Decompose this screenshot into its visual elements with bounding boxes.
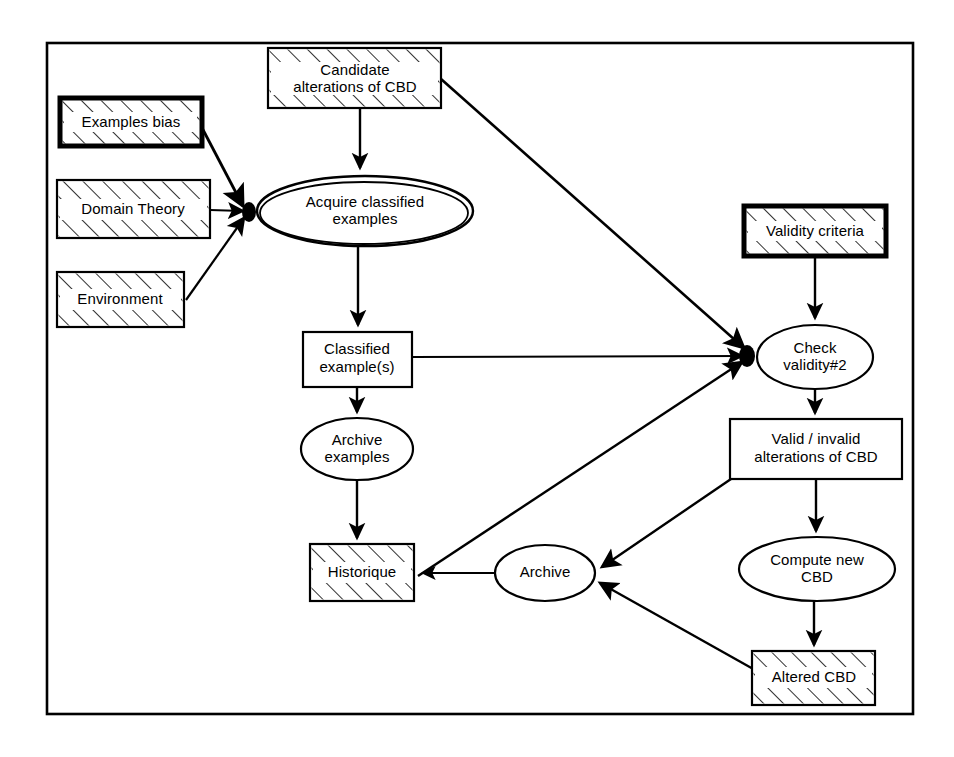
node-validity-criteria[interactable]: Validity criteria	[744, 206, 886, 256]
valid-invalid-label-line1: Valid / invalid	[772, 430, 861, 447]
edge-valid-invalid-to-archive	[602, 479, 731, 567]
node-domain-theory[interactable]: Domain Theory	[57, 180, 210, 238]
domain-theory-label: Domain Theory	[81, 200, 185, 217]
historique-label: Historique	[328, 563, 397, 580]
edge-domain-theory-to-acquire	[210, 210, 243, 211]
node-archive[interactable]: Archive	[495, 545, 595, 601]
edge-archive-to-check-validity	[418, 362, 742, 576]
classified-examples-label-line2: example(s)	[319, 358, 394, 375]
node-valid-invalid-alterations-of-cbd[interactable]: Valid / invalid alterations of CBD	[730, 419, 902, 479]
acquire-classified-examples-label-line2: examples	[333, 210, 398, 227]
node-examples-bias[interactable]: Examples bias	[60, 98, 202, 146]
candidate-alterations-label-line2: alterations of CBD	[293, 78, 417, 95]
valid-invalid-label-line2: alterations of CBD	[754, 448, 878, 465]
edge-candidate-to-check-validity	[441, 79, 744, 348]
candidate-alterations-label-line1: Candidate	[320, 61, 389, 78]
junction-acquire	[242, 202, 256, 222]
process-flow-diagram: Examples bias Domain Theory Environment …	[0, 0, 954, 757]
node-check-validity-2[interactable]: Check validity#2	[757, 325, 873, 389]
validity-criteria-label: Validity criteria	[766, 222, 865, 239]
altered-cbd-label: Altered CBD	[772, 668, 857, 685]
classified-examples-label-line1: Classified	[324, 340, 390, 357]
compute-new-cbd-label-line1: Compute new	[770, 551, 864, 568]
diagram-canvas: Examples bias Domain Theory Environment …	[0, 0, 954, 757]
environment-label: Environment	[77, 290, 163, 307]
compute-new-cbd-label-line2: CBD	[801, 568, 833, 585]
archive-label: Archive	[520, 563, 571, 580]
archive-examples-label-line2: examples	[325, 448, 390, 465]
junction-check-validity	[739, 345, 755, 367]
node-classified-examples[interactable]: Classified example(s)	[303, 332, 412, 387]
acquire-classified-examples-label-line1: Acquire classified	[306, 193, 425, 210]
node-compute-new-cbd[interactable]: Compute new CBD	[739, 537, 895, 601]
node-archive-examples[interactable]: Archive examples	[301, 418, 413, 480]
check-validity-2-label-line2: validity#2	[783, 356, 847, 373]
edge-altered-cbd-to-archive	[600, 583, 755, 670]
node-candidate-alterations-of-cbd[interactable]: Candidate alterations of CBD	[268, 48, 441, 108]
node-altered-cbd[interactable]: Altered CBD	[752, 651, 875, 705]
examples-bias-label: Examples bias	[82, 113, 181, 130]
node-acquire-classified-examples[interactable]: Acquire classified examples	[257, 176, 473, 246]
node-environment[interactable]: Environment	[57, 272, 184, 327]
edge-classified-examples-to-check-validity	[412, 356, 742, 357]
node-historique[interactable]: Historique	[310, 544, 414, 601]
archive-examples-label-line1: Archive	[332, 431, 383, 448]
check-validity-2-label-line1: Check	[793, 339, 836, 356]
